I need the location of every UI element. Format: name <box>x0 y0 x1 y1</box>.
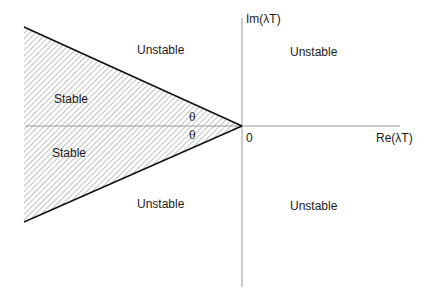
region-label-stable-lower: Stable <box>52 146 86 160</box>
region-label-upper-left: Unstable <box>137 43 184 57</box>
angle-label-lower: θ <box>189 129 196 143</box>
angle-label-upper: θ <box>189 111 196 125</box>
region-label-lower-left: Unstable <box>137 197 184 211</box>
x-axis-label: Re(λT) <box>376 131 413 145</box>
region-label-upper-right: Unstable <box>290 45 337 59</box>
region-label-stable-upper: Stable <box>54 92 88 106</box>
origin-label: 0 <box>246 131 253 145</box>
y-axis-label: Im(λT) <box>246 12 281 26</box>
stable-region <box>24 27 242 222</box>
region-label-lower-right: Unstable <box>290 199 337 213</box>
